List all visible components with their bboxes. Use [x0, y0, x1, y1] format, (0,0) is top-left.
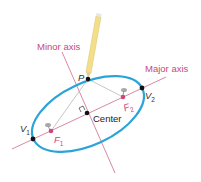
pushpin-icon: [121, 88, 127, 95]
focus1-label: F1: [54, 135, 63, 149]
ellipse-diagram: Minor axis Major axis P V2 V1 F1 F2 Cent…: [0, 0, 201, 182]
string-to-focus1: [51, 79, 88, 131]
center-point: [85, 111, 90, 116]
minor-axis-label: Minor axis: [37, 42, 80, 52]
vertex2-label: V2: [145, 91, 155, 105]
major-axis-label: Major axis: [145, 64, 188, 74]
pencil-icon: [86, 13, 102, 78]
string-to-focus2: [88, 79, 123, 97]
focus2-point: [121, 95, 126, 100]
vertex1-label: V1: [20, 124, 30, 138]
point-p-label: P: [78, 73, 84, 83]
right-angle-marker: [79, 106, 85, 112]
point-p: [86, 77, 91, 82]
center-label: Center: [93, 114, 122, 124]
ellipse-figure: [0, 0, 201, 182]
focus1-subscript: 1: [60, 140, 64, 147]
focus1-point: [49, 129, 54, 134]
vertex1-point: [31, 137, 36, 142]
vertex2-subscript: 2: [151, 96, 155, 103]
vertex2-point: [140, 86, 145, 91]
vertex1-subscript: 1: [26, 129, 30, 136]
